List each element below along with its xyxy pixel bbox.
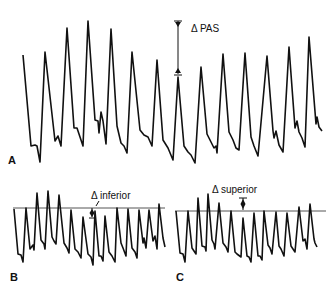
panel-b-trace — [14, 191, 165, 265]
delta-inferior-label: Δ inferior — [91, 190, 131, 201]
delta-superior-label: Δ superior — [212, 184, 258, 195]
panel-a-label: A — [8, 154, 16, 166]
delta-pas-arrow — [174, 21, 182, 75]
delta-superior-arrow — [239, 198, 247, 210]
panel-b-label: B — [10, 271, 18, 283]
waveform-figure: Δ PAS A Δ inferior B Δ superior C — [0, 0, 336, 294]
delta-inferior-arrow — [89, 201, 99, 218]
panel-a-trace — [23, 21, 322, 163]
panel-c-trace — [176, 194, 317, 262]
delta-pas-label: Δ PAS — [191, 23, 220, 34]
panel-c-label: C — [176, 271, 184, 283]
